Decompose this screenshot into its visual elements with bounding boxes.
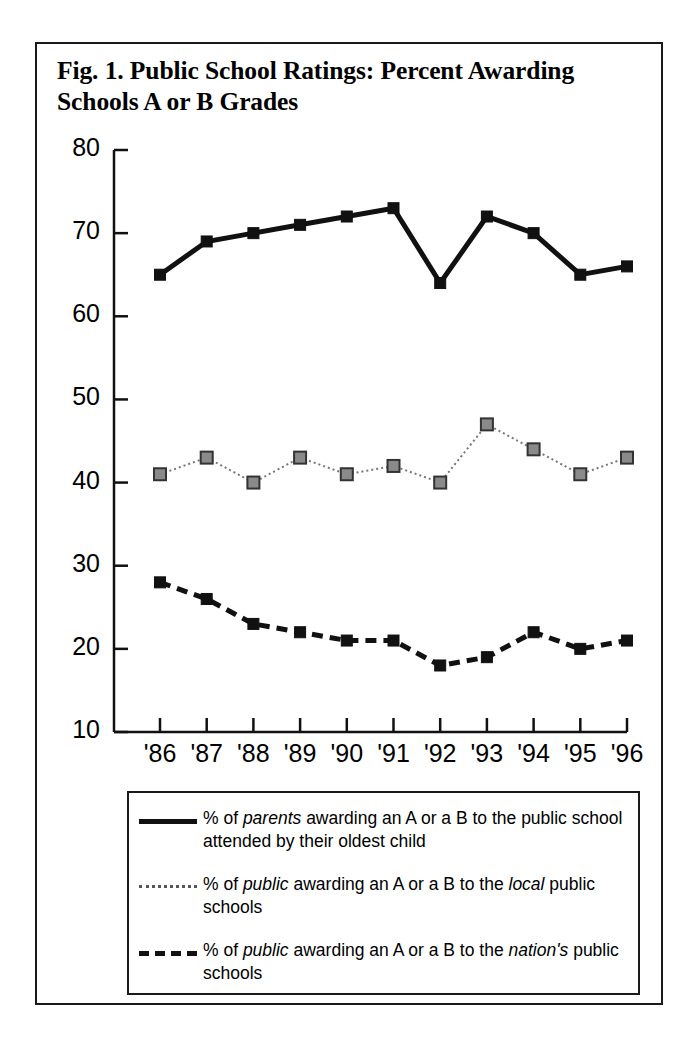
y-axis-tick-label: 60	[40, 299, 100, 328]
series-marker-public-local-schools	[154, 468, 166, 480]
series-marker-public-local-schools	[481, 418, 493, 430]
legend-entry: % of parents awarding an A or a B to the…	[139, 807, 634, 853]
series-marker-public-local-schools	[388, 460, 400, 472]
series-marker-public-national-schools	[201, 593, 212, 604]
series-marker-public-local-schools	[574, 468, 586, 480]
series-marker-public-local-schools	[201, 452, 213, 464]
legend-entry: % of public awarding an A or a B to the …	[139, 939, 634, 985]
series-marker-public-national-schools	[575, 643, 586, 654]
series-marker-public-local-schools	[294, 452, 306, 464]
y-axis-tick-label: 20	[40, 632, 100, 661]
legend-line-swatch	[139, 819, 197, 824]
series-marker-parents-own-school	[435, 278, 446, 289]
legend-entry: % of public awarding an A or a B to the …	[139, 873, 634, 919]
series-line-public-national-schools	[160, 582, 627, 665]
series-marker-public-national-schools	[295, 627, 306, 638]
series-marker-public-national-schools	[248, 618, 259, 629]
series-line-public-local-schools	[160, 424, 627, 482]
legend-label: % of parents awarding an A or a B to the…	[197, 807, 634, 853]
series-marker-public-national-schools	[481, 652, 492, 663]
series-marker-public-local-schools	[621, 452, 633, 464]
series-marker-public-national-schools	[622, 635, 633, 646]
legend-line-solid	[139, 811, 197, 831]
y-axis-tick-label: 40	[40, 466, 100, 495]
y-axis-tick-label: 70	[40, 216, 100, 245]
series-marker-parents-own-school	[155, 269, 166, 280]
legend-line-swatch	[139, 885, 197, 888]
series-marker-parents-own-school	[341, 211, 352, 222]
series-marker-public-national-schools	[528, 627, 539, 638]
series-marker-public-national-schools	[435, 660, 446, 671]
series-marker-parents-own-school	[248, 228, 259, 239]
y-axis-tick-label: 50	[40, 382, 100, 411]
chart-legend: % of parents awarding an A or a B to the…	[127, 791, 640, 995]
series-marker-parents-own-school	[481, 211, 492, 222]
series-marker-public-local-schools	[528, 443, 540, 455]
series-marker-public-national-schools	[341, 635, 352, 646]
y-axis-tick-label: 10	[40, 715, 100, 744]
legend-line-dashed	[139, 943, 197, 963]
series-marker-parents-own-school	[528, 228, 539, 239]
figure-frame: Fig. 1. Public School Ratings: Percent A…	[35, 42, 663, 1005]
series-marker-parents-own-school	[388, 203, 399, 214]
series-line-parents-own-school	[160, 208, 627, 283]
legend-label: % of public awarding an A or a B to the …	[197, 873, 634, 919]
legend-line-dotted	[139, 877, 197, 897]
series-marker-parents-own-school	[201, 236, 212, 247]
legend-label: % of public awarding an A or a B to the …	[197, 939, 634, 985]
series-marker-public-local-schools	[247, 477, 259, 489]
series-marker-public-local-schools	[434, 477, 446, 489]
series-marker-parents-own-school	[622, 261, 633, 272]
series-marker-public-local-schools	[341, 468, 353, 480]
series-marker-public-national-schools	[388, 635, 399, 646]
legend-line-swatch	[139, 951, 197, 956]
y-axis-tick-label: 80	[40, 133, 100, 162]
x-axis-tick-label: '96	[597, 739, 657, 768]
y-axis-tick-label: 30	[40, 549, 100, 578]
series-marker-parents-own-school	[295, 219, 306, 230]
series-marker-parents-own-school	[575, 269, 586, 280]
series-marker-public-national-schools	[155, 577, 166, 588]
